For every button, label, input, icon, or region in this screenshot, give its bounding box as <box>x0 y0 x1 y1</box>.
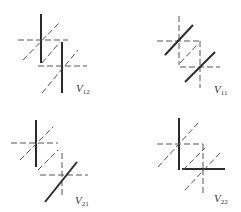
label-subscript: 12 <box>83 88 90 96</box>
label-subscript: 11 <box>221 89 228 97</box>
solid-diagonal-edge <box>45 162 77 202</box>
panel-label-v22: V22 <box>214 193 228 206</box>
label-subscript: 21 <box>82 200 89 208</box>
panel-label-v12: V12 <box>76 83 90 96</box>
dashed-diagonal-edge <box>38 150 58 170</box>
panel-v11 <box>157 16 220 88</box>
panel-label-v21: V21 <box>75 195 89 208</box>
label-main: V <box>214 192 221 204</box>
dashed-diagonal-edge <box>42 50 78 93</box>
dashed-diagonal-edge <box>180 45 197 63</box>
dashed-diagonal-edge <box>42 42 60 63</box>
label-main: V <box>75 194 82 206</box>
label-main: V <box>76 82 83 94</box>
diagram-canvas <box>0 0 241 212</box>
panel-label-v11: V11 <box>214 84 227 97</box>
label-subscript: 22 <box>221 198 228 206</box>
panel-v22 <box>157 118 225 193</box>
label-main: V <box>214 83 221 95</box>
dashed-diagonal-edge <box>183 148 205 170</box>
panel-v21 <box>11 120 88 202</box>
